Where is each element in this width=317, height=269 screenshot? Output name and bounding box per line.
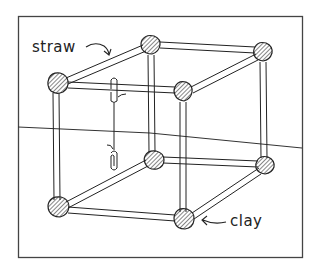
- clay-joint-back-bottom-left: [144, 151, 164, 169]
- clay-joint-front-bottom-left: [48, 197, 69, 217]
- clay-joint-front-top-left: [48, 73, 68, 93]
- clay-joint-back-bottom-right: [256, 157, 274, 175]
- paperclip-pendulum: [107, 78, 126, 170]
- straws: [53, 42, 267, 221]
- straw-left-top: [66, 45, 146, 84]
- clay-joints: [48, 36, 274, 230]
- straw-back-left-vertical: [148, 55, 155, 152]
- straw-front-bottom: [68, 207, 175, 221]
- straw-front-left-vertical: [53, 93, 60, 200]
- label-clay: clay: [230, 212, 262, 230]
- straw-arrow-icon: [86, 44, 111, 55]
- clay-joint-back-top-left: [141, 36, 160, 55]
- label-straw: straw: [32, 38, 76, 56]
- clay-joint-front-top-right: [174, 82, 192, 101]
- straw-right-top: [191, 54, 258, 93]
- clay-joint-front-bottom-right: [174, 209, 194, 229]
- horizon-line: [18, 127, 302, 148]
- straw-front-right-vertical: [180, 102, 186, 212]
- straw-back-bottom: [163, 157, 258, 167]
- straw-back-right-vertical: [260, 62, 267, 158]
- straw-back-top: [160, 42, 255, 53]
- straw-left-bottom: [66, 160, 148, 208]
- straw-clay-cube-illustration: straw clay: [0, 0, 317, 269]
- straw-front-top: [68, 82, 175, 93]
- paperclip-bottom-icon: [111, 151, 117, 170]
- clay-arrow-icon: [202, 216, 226, 225]
- clay-joint-back-top-right: [254, 43, 272, 62]
